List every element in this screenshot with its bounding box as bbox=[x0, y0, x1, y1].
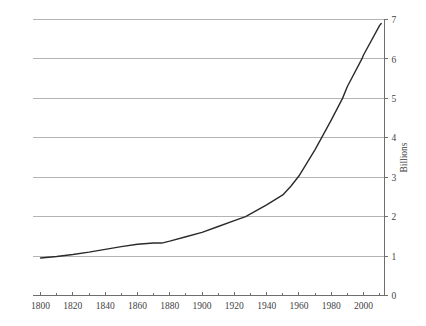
x-tick-label: 1880 bbox=[160, 301, 179, 311]
x-tick-label: 1960 bbox=[289, 301, 308, 311]
y-tick-label: 0 bbox=[392, 291, 397, 301]
x-tick-label: 1980 bbox=[322, 301, 341, 311]
x-tick-label: 1820 bbox=[63, 301, 82, 311]
x-tick-label: 1920 bbox=[225, 301, 244, 311]
x-tick-label: 1860 bbox=[128, 301, 147, 311]
y-tick-label: 6 bbox=[392, 55, 397, 65]
population-line-chart: 1800182018401860188019001920194019601980… bbox=[0, 0, 426, 326]
chart-canvas: 1800182018401860188019001920194019601980… bbox=[0, 0, 426, 326]
y-tick-label: 1 bbox=[392, 252, 397, 262]
y-tick-label: 7 bbox=[392, 15, 397, 25]
y-tick-label: 3 bbox=[392, 173, 397, 183]
y-tick-label: 2 bbox=[392, 212, 397, 222]
y-axis-title: Billions bbox=[399, 142, 409, 172]
x-tick-label: 2000 bbox=[354, 301, 373, 311]
y-tick-label: 5 bbox=[392, 94, 397, 104]
x-tick-label: 1800 bbox=[31, 301, 50, 311]
x-tick-label: 1900 bbox=[193, 301, 212, 311]
x-tick-label: 1940 bbox=[257, 301, 276, 311]
y-tick-label: 4 bbox=[392, 133, 397, 143]
x-tick-label: 1840 bbox=[96, 301, 115, 311]
